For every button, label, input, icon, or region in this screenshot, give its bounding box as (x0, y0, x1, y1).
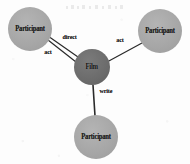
node-participant-top-left[interactable]: Participant (8, 7, 52, 51)
edge-label-direct: direct (63, 33, 77, 40)
edge-act-right (107, 43, 142, 62)
node-label: Participant (145, 27, 174, 35)
diagram-canvas: Participant Participant Film Participant… (0, 0, 190, 164)
node-label: Participant (81, 133, 110, 141)
node-film[interactable]: Film (74, 49, 110, 85)
node-label: Participant (15, 25, 44, 33)
edge-act-left (48, 40, 76, 62)
node-participant-bottom[interactable]: Participant (74, 115, 118, 159)
edge-write (93, 85, 95, 116)
edge-label-write: write (99, 87, 112, 94)
edge-label-act-left: act (44, 48, 51, 55)
node-participant-top-right[interactable]: Participant (138, 9, 182, 53)
node-label: Film (86, 63, 98, 71)
edge-label-act-right: act (116, 36, 123, 43)
